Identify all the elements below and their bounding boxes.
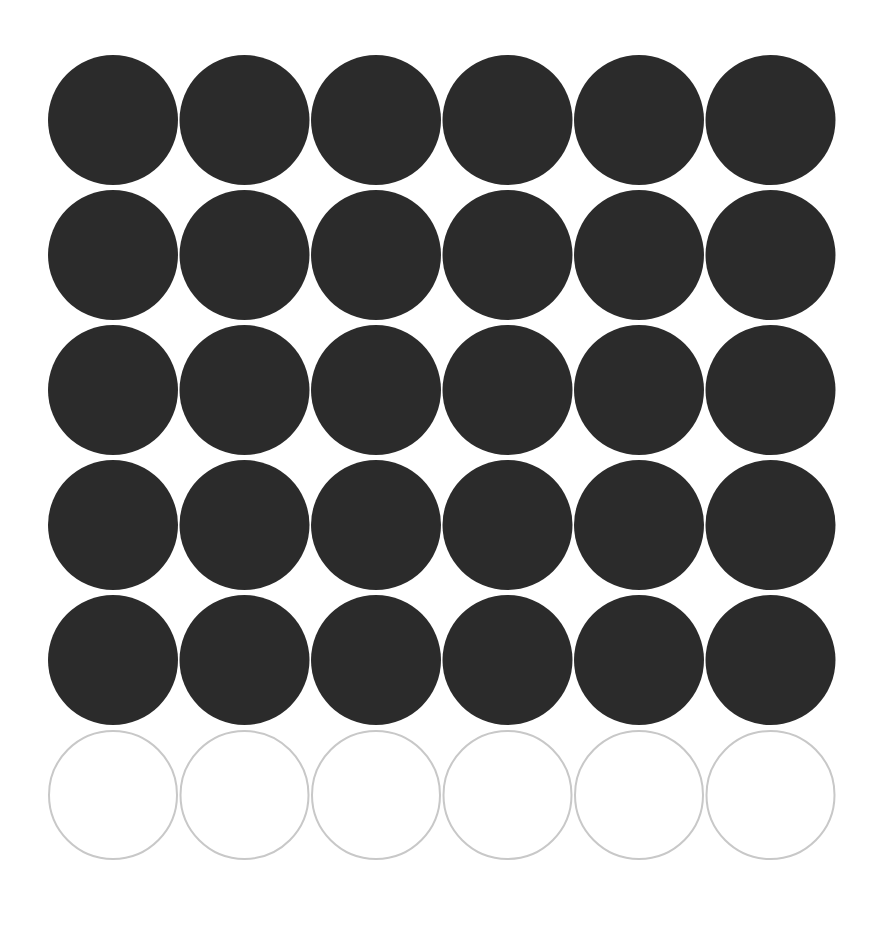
filled-circle xyxy=(48,595,178,725)
filled-circle xyxy=(706,190,836,320)
filled-circle xyxy=(443,460,573,590)
filled-circle xyxy=(180,595,310,725)
circle-grid xyxy=(0,0,894,931)
filled-circle xyxy=(180,55,310,185)
filled-circle xyxy=(706,325,836,455)
filled-circle xyxy=(443,55,573,185)
filled-circle xyxy=(443,190,573,320)
empty-circle xyxy=(312,731,440,859)
filled-circle xyxy=(574,190,704,320)
filled-circle xyxy=(180,460,310,590)
filled-circle xyxy=(574,595,704,725)
circle-grid-diagram xyxy=(0,0,894,931)
filled-circle xyxy=(180,325,310,455)
filled-circle xyxy=(574,55,704,185)
filled-circle xyxy=(706,595,836,725)
empty-circle xyxy=(444,731,572,859)
filled-circle xyxy=(443,325,573,455)
filled-circle xyxy=(706,460,836,590)
filled-circle xyxy=(48,55,178,185)
filled-circle xyxy=(311,460,441,590)
filled-circle xyxy=(311,325,441,455)
filled-circle xyxy=(574,325,704,455)
filled-circle xyxy=(48,460,178,590)
filled-circle xyxy=(706,55,836,185)
empty-circle xyxy=(707,731,835,859)
empty-circle xyxy=(49,731,177,859)
empty-circle xyxy=(575,731,703,859)
filled-circle xyxy=(48,325,178,455)
filled-circle xyxy=(311,190,441,320)
filled-circle xyxy=(443,595,573,725)
empty-circle xyxy=(181,731,309,859)
filled-circle xyxy=(311,55,441,185)
filled-circle xyxy=(180,190,310,320)
filled-circle xyxy=(311,595,441,725)
filled-circle xyxy=(48,190,178,320)
filled-circle xyxy=(574,460,704,590)
